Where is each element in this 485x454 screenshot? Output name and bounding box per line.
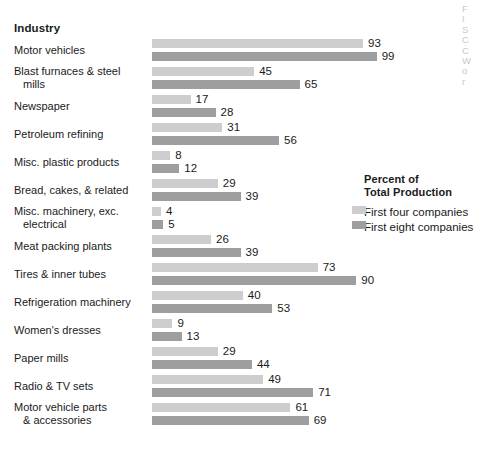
- bar-first-eight: [152, 220, 163, 229]
- bar-first-eight: [152, 248, 241, 257]
- bar-first-eight: [152, 332, 182, 341]
- category-label-line: Meat packing plants: [14, 240, 112, 252]
- bleed-text-line: F: [462, 4, 484, 14]
- bar-value-label: 61: [295, 401, 308, 414]
- legend-entry-first-eight: First eight companies: [364, 217, 484, 232]
- chart-row: Blast furnaces & steelmills4565: [0, 65, 485, 93]
- bar-first-eight: [152, 416, 309, 425]
- bar-first-four: [152, 263, 318, 272]
- category-label: Women's dresses: [14, 324, 148, 337]
- category-label-line: mills: [14, 78, 148, 91]
- bar-first-eight: [152, 304, 272, 313]
- bar-value-label: 26: [216, 233, 229, 246]
- bar-first-eight: [152, 52, 377, 61]
- legend-title-line1: Percent of: [364, 173, 419, 185]
- category-label: Radio & TV sets: [14, 380, 148, 393]
- industry-column-header: Industry: [14, 22, 60, 34]
- bar-first-four: [152, 39, 363, 48]
- bar-value-label: 29: [223, 177, 236, 190]
- bar-first-four: [152, 123, 222, 132]
- bar-first-four: [152, 67, 254, 76]
- bar-first-four: [152, 291, 243, 300]
- category-label: Motor vehicle parts& accessories: [14, 401, 148, 427]
- chart-row: Refrigeration machinery4053: [0, 289, 485, 317]
- category-label-line: Tires & inner tubes: [14, 268, 106, 280]
- bar-value-label: 65: [305, 78, 318, 91]
- bar-value-label: 28: [221, 106, 234, 119]
- bar-value-label: 13: [187, 330, 200, 343]
- category-label: Motor vehicles: [14, 44, 148, 57]
- category-label-line: Blast furnaces & steel: [14, 65, 120, 77]
- bar-value-label: 90: [361, 274, 374, 287]
- bar-value-label: 44: [257, 358, 270, 371]
- bar-value-label: 9: [177, 317, 183, 330]
- bar-value-label: 53: [277, 302, 290, 315]
- bar-first-eight: [152, 192, 241, 201]
- bar-value-label: 5: [168, 218, 174, 231]
- category-label-line: Motor vehicle parts: [14, 401, 107, 413]
- bar-first-eight: [152, 276, 356, 285]
- category-label: Petroleum refining: [14, 128, 148, 141]
- bar-first-four: [152, 347, 218, 356]
- category-label-line: Misc. plastic products: [14, 156, 119, 168]
- bar-first-four: [152, 403, 290, 412]
- category-label-line: Motor vehicles: [14, 44, 85, 56]
- bar-value-label: 56: [284, 134, 297, 147]
- bar-first-four: [152, 179, 218, 188]
- category-label: Misc. plastic products: [14, 156, 148, 169]
- chart-row: Paper mills2944: [0, 345, 485, 373]
- category-label-line: Refrigeration machinery: [14, 296, 131, 308]
- category-label-line: Petroleum refining: [14, 128, 103, 140]
- category-label-line: Women's dresses: [14, 324, 101, 336]
- bar-first-four: [152, 207, 161, 216]
- bar-value-label: 71: [318, 386, 331, 399]
- chart-row: Petroleum refining3156: [0, 121, 485, 149]
- bar-value-label: 73: [323, 261, 336, 274]
- bar-first-eight: [152, 360, 252, 369]
- bar-first-eight: [152, 388, 313, 397]
- bar-first-four: [152, 319, 172, 328]
- bar-first-eight: [152, 108, 216, 117]
- chart-row: Motor vehicle parts& accessories6169: [0, 401, 485, 429]
- category-label-line: & accessories: [14, 414, 148, 427]
- chart-row: Women's dresses913: [0, 317, 485, 345]
- bar-value-label: 12: [184, 162, 197, 175]
- category-label-line: Paper mills: [14, 352, 68, 364]
- chart-legend: Percent of Total Production First four c…: [364, 173, 484, 232]
- bar-first-four: [152, 235, 211, 244]
- bar-value-label: 39: [246, 246, 259, 259]
- chart-row: Radio & TV sets4971: [0, 373, 485, 401]
- chart-row: Motor vehicles9399: [0, 37, 485, 65]
- category-label-line: Bread, cakes, & related: [14, 184, 128, 196]
- legend-title: Percent of Total Production: [364, 173, 484, 198]
- category-label: Refrigeration machinery: [14, 296, 148, 309]
- bar-first-four: [152, 375, 263, 384]
- bar-value-label: 4: [166, 205, 172, 218]
- category-label: Paper mills: [14, 352, 148, 365]
- bar-value-label: 69: [314, 414, 327, 427]
- category-label: Tires & inner tubes: [14, 268, 148, 281]
- bar-value-label: 93: [368, 37, 381, 50]
- bar-value-label: 40: [248, 289, 261, 302]
- category-label-line: Radio & TV sets: [14, 380, 93, 392]
- category-label: Meat packing plants: [14, 240, 148, 253]
- chart-row: Meat packing plants2639: [0, 233, 485, 261]
- bar-value-label: 45: [259, 65, 272, 78]
- legend-swatch-dark-icon: [352, 221, 366, 229]
- bar-value-label: 39: [246, 190, 259, 203]
- legend-title-line2: Total Production: [364, 186, 452, 198]
- chart-row: Tires & inner tubes7390: [0, 261, 485, 289]
- category-label: Bread, cakes, & related: [14, 184, 148, 197]
- bar-value-label: 17: [196, 93, 209, 106]
- category-label-line: Misc. machinery, exc.: [14, 205, 119, 217]
- category-label: Misc. machinery, exc.electrical: [14, 205, 148, 231]
- bar-value-label: 99: [382, 50, 395, 63]
- bar-value-label: 8: [175, 149, 181, 162]
- bar-first-eight: [152, 80, 300, 89]
- bar-first-eight: [152, 136, 279, 145]
- category-label: Blast furnaces & steelmills: [14, 65, 148, 91]
- category-label: Newspaper: [14, 100, 148, 113]
- bar-first-four: [152, 151, 170, 160]
- bar-first-eight: [152, 164, 179, 173]
- bar-first-four: [152, 95, 191, 104]
